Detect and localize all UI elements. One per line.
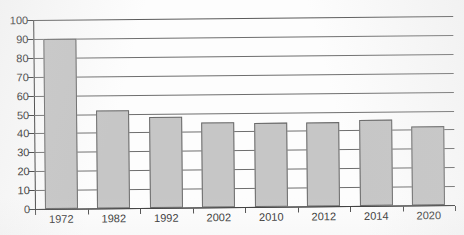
x-axis-tick-label-1982: 1982 xyxy=(88,212,141,226)
x-axis-tick-mark-6 xyxy=(350,207,351,212)
bar-1972 xyxy=(43,39,78,209)
plot-skew-wrapper: 0102030405060708090100 19721982199220022… xyxy=(0,0,464,235)
x-axis-tick-label-1972: 1972 xyxy=(35,213,88,227)
x-axis-tick-label-2002: 2002 xyxy=(193,211,246,225)
x-axis-tick-mark-5 xyxy=(297,208,298,213)
bar-chart: 0102030405060708090100 19721982199220022… xyxy=(0,0,464,235)
bar-2012 xyxy=(306,122,340,206)
x-axis-tick-label-2012: 2012 xyxy=(298,210,351,224)
gridline-80 xyxy=(34,54,454,59)
x-axis-tick-label-2014: 2014 xyxy=(350,210,403,224)
gridline-100 xyxy=(33,16,453,21)
x-axis-tick-mark-2 xyxy=(140,209,141,214)
x-axis-tick-mark-1 xyxy=(87,210,88,215)
x-axis-tick-mark-3 xyxy=(192,209,193,214)
bar-2014 xyxy=(359,120,393,206)
gridline-60 xyxy=(34,92,454,97)
x-axis-tick-mark-4 xyxy=(245,208,246,213)
bar-2010 xyxy=(254,123,288,207)
x-axis-tick-label-2020: 2020 xyxy=(403,209,456,223)
x-axis-tick-label-1992: 1992 xyxy=(140,212,193,226)
bar-2020 xyxy=(411,126,445,206)
gridline-70 xyxy=(34,73,454,78)
x-axis-tick-mark-7 xyxy=(402,207,403,212)
plot-area xyxy=(33,16,455,209)
bar-1992 xyxy=(149,117,183,208)
x-axis-tick-mark-0 xyxy=(35,210,36,215)
bar-1982 xyxy=(96,110,130,209)
gridline-90 xyxy=(33,35,453,40)
x-axis-labels: 19721982199220022010201220142020 xyxy=(35,207,455,235)
bar-2002 xyxy=(201,122,235,207)
x-axis-tick-mark-end xyxy=(455,206,456,211)
x-axis-tick-label-2010: 2010 xyxy=(245,211,298,225)
